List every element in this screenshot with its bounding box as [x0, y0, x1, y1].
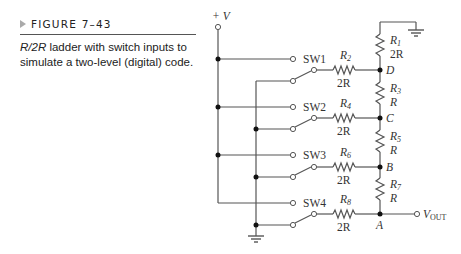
switch-label-sw3: SW3 [303, 149, 326, 161]
node-label-c: C [386, 112, 394, 124]
svg-text:2R: 2R [337, 125, 351, 137]
svg-text:R6: R6 [339, 146, 351, 160]
svg-text:R5: R5 [389, 130, 401, 144]
resistor-r8: R8 2R [337, 193, 351, 233]
svg-text:R2: R2 [339, 49, 351, 63]
svg-text:2R: 2R [390, 48, 404, 60]
svg-text:2R: 2R [337, 77, 351, 89]
ground-icon [248, 236, 264, 242]
svg-text:R: R [389, 144, 397, 156]
junction-dots [216, 57, 383, 228]
svg-text:2R: 2R [337, 221, 351, 233]
svg-text:2R: 2R [337, 174, 351, 186]
resistor-r3: R3 R [389, 82, 401, 108]
r2r-ladder-circuit: + V SW1 SW2 SW3 SW4 R2 2R R4 2R R6 2R R8… [0, 0, 461, 254]
svg-text:R: R [389, 96, 397, 108]
supply-label: + V [212, 10, 232, 22]
output-label: VOUT [423, 208, 447, 222]
resistor-r6: R6 2R [337, 146, 351, 186]
svg-text:R3: R3 [389, 82, 401, 96]
resistor-r7: R7 R [389, 178, 402, 204]
node-label-a: A [375, 219, 384, 231]
resistor-r1: R1 2R [389, 34, 404, 60]
resistor-r4: R4 2R [337, 97, 351, 137]
node-label-d: D [385, 64, 395, 76]
svg-text:R1: R1 [389, 34, 401, 48]
svg-text:R7: R7 [389, 178, 402, 192]
switch-label-sw4: SW4 [303, 197, 326, 209]
switch-label-sw1: SW1 [303, 53, 326, 65]
resistor-r5: R5 R [389, 130, 401, 156]
svg-text:R: R [389, 192, 397, 204]
svg-text:R4: R4 [339, 97, 351, 111]
node-label-b: B [386, 161, 393, 173]
ground-icon [408, 30, 424, 36]
switch-label-sw2: SW2 [303, 101, 326, 113]
resistor-r2: R2 2R [337, 49, 351, 89]
svg-text:R8: R8 [339, 193, 351, 207]
